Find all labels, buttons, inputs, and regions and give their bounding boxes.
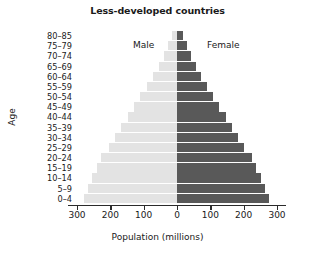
y-axis-tick-label: 25–29: [47, 143, 72, 153]
bar-male: [92, 173, 177, 182]
pyramid-row: [77, 133, 277, 143]
bar-female: [177, 62, 196, 71]
series-label-male: Male: [133, 40, 154, 50]
pyramid-row: [77, 194, 277, 204]
x-axis-tick-label: 300: [68, 210, 85, 220]
pyramid-row: [77, 31, 277, 41]
pyramid-row: [77, 62, 277, 72]
pyramid-row: [77, 173, 277, 183]
bar-female: [177, 194, 269, 203]
y-axis-tick-label: 35–39: [47, 123, 72, 133]
bar-female: [177, 102, 219, 111]
y-axis-tick-label: 80–85: [47, 31, 72, 41]
bar-female: [177, 51, 191, 60]
bar-female: [177, 123, 232, 132]
y-axis-tick-label: 10–14: [47, 173, 72, 183]
population-pyramid-chart: Less-developed countries Age 80–8575–797…: [0, 0, 315, 255]
bar-male: [153, 72, 177, 81]
bar-male: [164, 51, 177, 60]
y-axis-tick-label: 55–59: [47, 82, 72, 92]
pyramid-row: [77, 143, 277, 153]
bar-female: [177, 153, 252, 162]
bar-male: [115, 133, 177, 142]
bar-female: [177, 163, 256, 172]
x-axis-tick-label: 200: [102, 210, 119, 220]
y-axis-tick-label: 5–9: [57, 184, 72, 194]
y-axis-title: Age: [7, 97, 17, 137]
x-axis-tick-label: 100: [135, 210, 152, 220]
bar-female: [177, 173, 261, 182]
bar-male: [121, 123, 177, 132]
bar-male: [128, 112, 177, 121]
pyramid-row: [77, 102, 277, 112]
y-axis-tick-label: 75–79: [47, 41, 72, 51]
x-axis-title: Population (millions): [0, 232, 315, 242]
bar-female: [177, 112, 226, 121]
bar-female: [177, 184, 265, 193]
y-axis-tick-label: 40–44: [47, 112, 72, 122]
y-axis-tick-label: 20–24: [47, 153, 72, 163]
x-axis-tick-label: 100: [202, 210, 219, 220]
plot-area: [77, 31, 277, 204]
pyramid-row: [77, 184, 277, 194]
pyramid-row: [77, 92, 277, 102]
pyramid-row: [77, 112, 277, 122]
pyramid-row: [77, 51, 277, 61]
bar-female: [177, 133, 238, 142]
chart-title: Less-developed countries: [0, 5, 315, 16]
series-label-female: Female: [207, 40, 240, 50]
x-axis-tick-label: 0: [174, 210, 180, 220]
bar-male: [101, 153, 177, 162]
y-axis-tick-label: 15–19: [47, 163, 72, 173]
bar-male: [97, 163, 177, 172]
bar-male: [147, 82, 177, 91]
pyramid-row: [77, 123, 277, 133]
bar-female: [177, 41, 187, 50]
x-axis-tick-label: 200: [235, 210, 252, 220]
pyramid-row: [77, 82, 277, 92]
y-axis-tick-label: 30–34: [47, 133, 72, 143]
y-axis-tick-label: 70–74: [47, 51, 72, 61]
x-axis-tick-label: 300: [268, 210, 285, 220]
bar-male: [134, 102, 177, 111]
bar-male: [168, 41, 177, 50]
bar-female: [177, 92, 213, 101]
bar-female: [177, 82, 207, 91]
y-axis-tick-label: 65–69: [47, 62, 72, 72]
pyramid-row: [77, 72, 277, 82]
y-axis-tick-label: 45–49: [47, 102, 72, 112]
bar-male: [159, 62, 177, 71]
bar-female: [177, 31, 183, 40]
y-axis-tick-labels: 80–8575–7970–7465–6960–6455–5950–5445–49…: [22, 31, 72, 204]
y-axis-tick-label: 50–54: [47, 92, 72, 102]
bar-female: [177, 72, 201, 81]
pyramid-row: [77, 163, 277, 173]
pyramid-row: [77, 153, 277, 163]
bar-male: [140, 92, 177, 101]
bar-male: [109, 143, 177, 152]
bar-male: [88, 184, 177, 193]
bar-female: [177, 143, 244, 152]
bar-male: [84, 194, 177, 203]
pyramid-row: [77, 41, 277, 51]
y-axis-tick-label: 60–64: [47, 72, 72, 82]
y-axis-tick-label: 0–4: [57, 194, 72, 204]
